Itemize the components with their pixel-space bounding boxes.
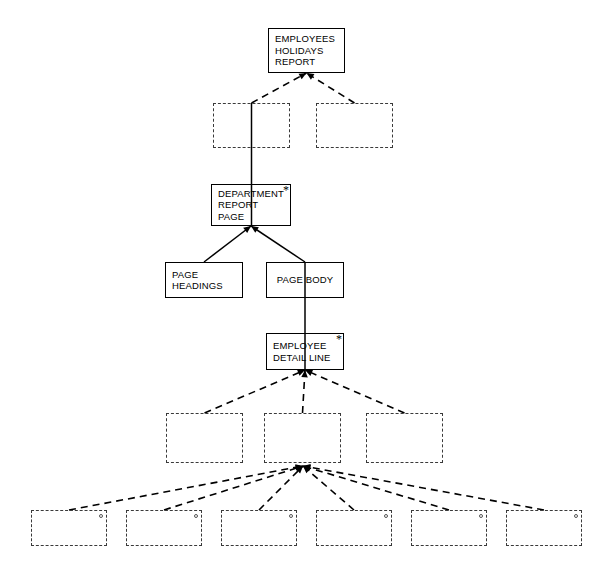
node-row5-blank-3[interactable] [221,510,297,546]
arrowhead-edge-row4left-to-detailline [297,370,305,376]
node-label: EMPLOYEE [273,340,343,352]
node-page-headings[interactable]: PAGEHEADINGS [165,262,243,298]
node-label: PAGE [218,211,290,223]
arrowhead-edge-row2left-to-root [299,73,307,79]
arrowhead-edge-row4right-to-detailline [305,370,313,376]
node-label: DEPARTMENT [218,188,290,200]
selection-circle-icon [289,514,293,518]
connector-edge-row4middle-to-detailline [303,370,306,413]
arrowhead-edge-row5-6-to-hub [303,464,311,470]
connector-edge-row2right-to-root [307,73,355,103]
arrowhead-edge-row5-1-to-hub [295,464,303,470]
arrowhead-edge-row5-3-to-hub [296,466,303,473]
node-row5-blank-5[interactable] [411,510,487,546]
node-row2-right-blank[interactable] [316,103,393,148]
connector-edge-row5-3-to-hub [259,466,303,510]
node-row5-blank-2[interactable] [126,510,202,546]
node-label: DETAIL LINE [273,352,343,364]
arrowhead-edge-row2right-to-root [307,73,315,80]
repetition-asterisk-icon: * [336,333,342,345]
connector-edge-row5-1-to-hub [69,466,303,510]
node-row4-left-blank[interactable] [166,413,243,463]
connector-edge-row5-6-to-hub [303,466,544,510]
arrowhead-edge-row5-2-to-hub [295,465,303,471]
arrowhead-edge-row5-5-to-hub [303,465,311,471]
node-row5-blank-6[interactable] [506,510,582,546]
selection-circle-icon [479,514,483,518]
connector-edge-row4right-to-detailline [305,370,405,413]
node-label: EMPLOYEES [275,33,344,45]
node-label: PAGE BODY [277,274,334,286]
arrowhead-edge-pagebody-to-department [251,226,259,233]
connector-edge-row5-5-to-hub [303,466,449,510]
connector-edge-row4left-to-detailline [205,370,306,413]
connector-edge-pagebody-to-department [251,226,305,262]
node-label: PAGE [172,269,242,281]
connector-edge-row2left-to-root [252,73,307,103]
node-label: HEADINGS [172,280,242,292]
node-label: HOLIDAYS [275,45,344,57]
connector-edge-pageheadings-to-department [204,226,251,262]
arrowhead-edge-row5-4-to-hub [303,466,311,473]
connector-edge-row5-2-to-hub [164,466,303,510]
arrowhead-edge-row4middle-to-detailline [301,370,308,377]
arrowhead-edge-pageheadings-to-department [243,226,251,233]
selection-circle-icon [384,514,388,518]
node-label: REPORT [218,199,290,211]
selection-circle-icon [99,514,103,518]
selection-circle-icon [194,514,198,518]
node-row4-right-blank[interactable] [366,413,443,463]
repetition-asterisk-icon: * [283,184,289,196]
node-row5-blank-4[interactable] [316,510,392,546]
node-row5-blank-1[interactable] [31,510,107,546]
node-employees-holidays-report[interactable]: EMPLOYEESHOLIDAYSREPORT [268,28,345,73]
selection-circle-icon [574,514,578,518]
node-page-body[interactable]: PAGE BODY [266,262,344,298]
node-employee-detail-line[interactable]: EMPLOYEEDETAIL LINE* [266,333,344,370]
node-row4-middle-blank[interactable] [264,413,341,463]
structure-chart-diagram: EMPLOYEESHOLIDAYSREPORTDEPARTMENTREPORTP… [0,0,611,579]
node-label: REPORT [275,56,344,68]
connector-edge-row5-4-to-hub [303,466,354,510]
node-row2-left-blank[interactable] [213,103,290,148]
node-department-report-page[interactable]: DEPARTMENTREPORTPAGE* [211,184,291,226]
